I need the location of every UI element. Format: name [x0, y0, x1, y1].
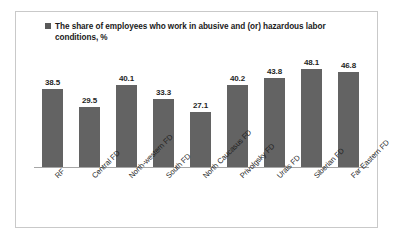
bar-value-label: 40.2 — [230, 74, 245, 83]
bar-value-label: 33.3 — [156, 88, 171, 97]
x-axis-label: RF — [53, 167, 66, 180]
x-axis-tick: Far Eastern FD — [330, 169, 367, 229]
bar-item[interactable]: 27.1 — [182, 57, 219, 167]
bar-value-label: 40.1 — [119, 74, 134, 83]
bar-value-label: 29.5 — [82, 96, 97, 105]
bar-value-label: 43.8 — [267, 67, 282, 76]
x-axis-tick: Central FD — [71, 169, 108, 229]
x-axis-labels: RF Central FD North-western FD South FD … — [34, 169, 367, 229]
x-axis-tick: Siberian FD — [293, 169, 330, 229]
x-axis-tick: North Caucasus FD — [182, 169, 219, 229]
bar-rect[interactable] — [190, 112, 211, 167]
bar-item[interactable]: 29.5 — [71, 57, 108, 167]
x-axis-tick: South FD — [145, 169, 182, 229]
x-axis-tick: Privolgsky FD — [219, 169, 256, 229]
chart-legend: The share of employees who work in abusi… — [45, 21, 345, 43]
bar-rect[interactable] — [79, 107, 100, 167]
bar-value-label: 46.8 — [341, 61, 356, 70]
plot-area: 38.5 29.5 40.1 33.3 27.1 40.2 — [34, 57, 367, 167]
bar-value-label: 48.1 — [304, 58, 319, 67]
x-axis-tick: Urals FD — [256, 169, 293, 229]
bar-value-label: 38.5 — [45, 78, 60, 87]
bar-item[interactable]: 38.5 — [34, 57, 71, 167]
chart-frame: The share of employees who work in abusi… — [15, 11, 378, 228]
legend-color-swatch-icon — [45, 23, 51, 29]
bar-value-label: 27.1 — [193, 101, 208, 110]
x-axis-tick: RF — [34, 169, 71, 229]
bar-series: 38.5 29.5 40.1 33.3 27.1 40.2 — [34, 57, 367, 167]
x-axis-tick: North-western FD — [108, 169, 145, 229]
bar-item[interactable]: 48.1 — [293, 57, 330, 167]
bar-rect[interactable] — [301, 69, 322, 167]
legend-label: The share of employees who work in abusi… — [55, 21, 345, 43]
bar-rect[interactable] — [42, 89, 63, 167]
